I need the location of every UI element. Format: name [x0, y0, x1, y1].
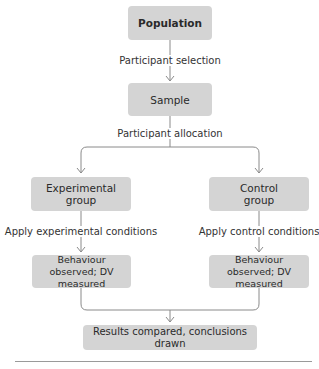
bottom-divider [15, 361, 312, 362]
results-node: Results compared, conclusions drawn [83, 325, 257, 350]
behaviour-left-label: Behaviour observed; DV measured [35, 254, 128, 290]
experimental-group-node: Experimental group [31, 177, 131, 211]
control-group-label: Control group [231, 182, 287, 206]
behaviour-left-node: Behaviour observed; DV measured [32, 255, 131, 288]
results-label: Results compared, conclusions drawn [83, 326, 257, 350]
experimental-group-label: Experimental group [45, 182, 117, 206]
behaviour-right-label: Behaviour observed; DV measured [212, 254, 306, 290]
participant-allocation-label: Participant allocation [116, 128, 223, 139]
apply-experimental-label: Apply experimental conditions [4, 226, 158, 237]
control-group-node: Control group [209, 177, 309, 211]
participant-selection-label: Participant selection [118, 55, 222, 66]
population-label: Population [138, 17, 202, 29]
behaviour-right-node: Behaviour observed; DV measured [209, 255, 309, 288]
sample-label: Sample [150, 94, 189, 106]
sample-node: Sample [128, 83, 212, 116]
population-node: Population [128, 6, 212, 40]
apply-control-label: Apply control conditions [198, 226, 319, 237]
